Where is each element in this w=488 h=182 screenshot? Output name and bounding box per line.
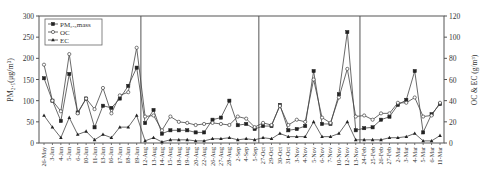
x-tick-label: 28-Aug xyxy=(225,147,232,166)
right-axis-label: OC & EC (g/m³) xyxy=(470,54,479,105)
left-tick-label: 200 xyxy=(23,54,35,63)
x-tick-label: 20-Aug xyxy=(192,147,199,166)
series-pm2-5-mass xyxy=(42,30,441,135)
x-axis: 26-May3-Jun4-Jun5-Jun6-Jun10-Jun11-Jun13… xyxy=(40,143,443,167)
x-tick-label: 13-Aug xyxy=(150,147,157,166)
x-tick-label: 27-Aug xyxy=(217,147,224,166)
x-tick-label: 15-Aug xyxy=(166,147,173,166)
x-tick-label: 5-Sep xyxy=(251,147,258,161)
right-tick-label: 80 xyxy=(449,54,457,63)
x-tick-label: 27-Oct xyxy=(259,147,266,164)
x-tick-label: 5-Nov xyxy=(310,146,317,163)
left-tick-label: 50 xyxy=(27,118,35,127)
x-tick-label: 5-Jun xyxy=(65,147,72,161)
x-tick-label: 22-Aug xyxy=(200,147,207,166)
legend-label: OC xyxy=(60,29,70,37)
x-tick-label: 19-Jun xyxy=(133,147,140,164)
left-tick-label: 0 xyxy=(30,139,34,148)
x-tick-label: 2-Mar xyxy=(394,147,401,162)
x-tick-label: 5-Mar xyxy=(419,147,426,162)
x-tick-label: 24-Feb xyxy=(360,147,367,165)
x-tick-label: 3-Nov xyxy=(293,146,300,163)
right-tick-label: 40 xyxy=(449,97,457,106)
left-tick-label: 250 xyxy=(23,33,35,42)
x-tick-label: 25-Feb xyxy=(369,147,376,165)
x-tick-label: 10-Nov xyxy=(335,146,342,166)
x-tick-label: 12-Aug xyxy=(141,147,148,166)
left-axis-label: PM₂.₅(μg/m³) xyxy=(6,58,15,102)
x-tick-label: 4-Jun xyxy=(57,147,64,161)
x-tick-label: 26-Feb xyxy=(377,147,384,165)
left-tick-label: 150 xyxy=(23,76,35,85)
x-tick-label: 12-Nov xyxy=(343,146,350,166)
x-tick-label: 13-Jun xyxy=(99,147,106,164)
pm-oc-ec-time-series-chart: 050100150200250300 020406080100120 26-Ma… xyxy=(0,0,488,182)
x-tick-label: 6-Jun xyxy=(74,147,81,161)
x-tick-label: 29-Oct xyxy=(267,147,274,164)
left-tick-label: 100 xyxy=(23,97,35,106)
x-tick-label: 16-Jun xyxy=(107,147,114,164)
right-tick-label: 0 xyxy=(449,139,453,148)
x-tick-label: 4-Nov xyxy=(301,146,308,163)
x-tick-label: 26-May xyxy=(40,146,47,166)
left-tick-label: 300 xyxy=(23,12,35,21)
x-tick-label: 6-Mar xyxy=(428,147,435,162)
x-tick-label: 11-Mar xyxy=(436,147,443,165)
right-tick-label: 20 xyxy=(449,118,457,127)
x-tick-label: 6-Nov xyxy=(318,146,325,163)
x-tick-label: 10-Jun xyxy=(82,147,89,164)
right-tick-label: 100 xyxy=(449,33,461,42)
x-tick-label: 18-Jun xyxy=(124,147,131,164)
x-tick-label: 31-Oct xyxy=(284,147,291,164)
x-tick-label: 19-Aug xyxy=(183,147,190,166)
left-y-axis: 050100150200250300 xyxy=(23,12,39,148)
right-y-axis: 020406080100120 xyxy=(444,12,461,148)
x-tick-label: 11-Jun xyxy=(91,147,98,164)
x-tick-label: 3-Mar xyxy=(402,147,409,162)
x-tick-label: 7-Nov xyxy=(326,146,333,163)
x-tick-label: 2-Sep xyxy=(234,147,241,161)
x-tick-label: 14-Aug xyxy=(158,147,165,166)
x-tick-label: 4-Mar xyxy=(411,147,418,162)
legend-label: PM₂.₅mass xyxy=(60,21,91,29)
x-tick-label: 26-Aug xyxy=(209,147,216,166)
x-tick-label: 18-Aug xyxy=(175,147,182,166)
x-tick-label: 17-Jun xyxy=(116,147,123,164)
x-tick-label: 13-Nov xyxy=(352,146,359,166)
x-tick-label: 4-Sep xyxy=(242,147,249,161)
x-tick-label: 27-Feb xyxy=(385,147,392,165)
legend-label: EC xyxy=(60,37,69,45)
x-tick-label: 30-Oct xyxy=(276,147,283,164)
right-tick-label: 120 xyxy=(449,12,461,21)
data-series xyxy=(42,30,442,143)
legend: PM₂.₅massOCEC xyxy=(45,19,102,45)
right-tick-label: 60 xyxy=(449,76,457,85)
x-tick-label: 3-Jun xyxy=(48,147,55,161)
